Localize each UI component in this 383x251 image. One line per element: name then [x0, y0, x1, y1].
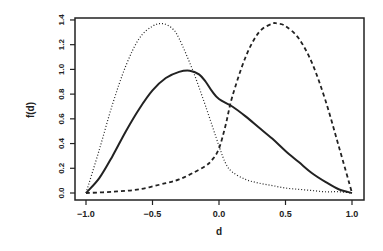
plot-frame [75, 18, 364, 200]
y-tick-label: 1.0 [57, 63, 66, 75]
x-tick-label: −0.5 [144, 209, 162, 219]
y-tick-label: 0.0 [57, 187, 66, 199]
series-dotted-line [86, 24, 352, 193]
y-tick-label: 1.4 [57, 14, 66, 26]
y-axis: 0.00.20.40.60.81.01.21.4 [57, 14, 75, 199]
x-tick-label: 0.0 [213, 209, 226, 219]
series-dashed-line [86, 23, 352, 193]
y-tick-label: 0.6 [57, 113, 66, 125]
y-tick-label: 1.2 [57, 39, 66, 51]
y-tick-label: 0.4 [57, 137, 66, 149]
x-tick-label: 1.0 [346, 209, 359, 219]
x-tick-label: 0.5 [279, 209, 292, 219]
y-tick-label: 0.8 [57, 88, 66, 100]
y-tick-label: 0.2 [57, 162, 66, 174]
chart-container: −1.0−0.50.00.51.0 0.00.20.40.60.81.01.21… [0, 0, 383, 251]
y-axis-label: f(d) [25, 102, 36, 118]
x-tick-label: −1.0 [77, 209, 95, 219]
x-axis-label: d [216, 226, 222, 237]
line-chart: −1.0−0.50.00.51.0 0.00.20.40.60.81.01.21… [0, 0, 383, 251]
series-solid-line [86, 70, 352, 193]
series-group [86, 23, 352, 193]
x-axis: −1.0−0.50.00.51.0 [77, 200, 358, 219]
